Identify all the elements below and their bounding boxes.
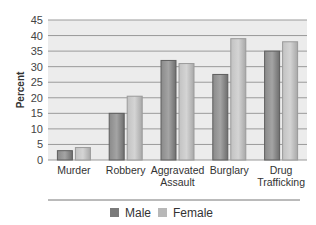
y-tick-label: 45 (31, 14, 43, 26)
y-tick-label: 35 (31, 45, 43, 57)
bar-male (161, 60, 176, 160)
bar-female (283, 42, 298, 160)
x-category-label: Aggravated (151, 164, 205, 176)
bar-chart: 051015202530354045 Percent MurderRobbery… (0, 0, 316, 225)
bar-female (231, 39, 246, 160)
x-category-label: Burglary (210, 164, 250, 176)
y-tick-label: 15 (31, 107, 43, 119)
bar-male (109, 113, 124, 160)
y-tick-label: 10 (31, 123, 43, 135)
y-tick-label: 20 (31, 92, 43, 104)
bar-female (75, 148, 90, 160)
y-axis-ticks: 051015202530354045 (31, 14, 43, 166)
x-category-label: Drug (270, 164, 293, 176)
legend: MaleFemale (110, 206, 213, 220)
x-category-label: Assault (160, 176, 195, 188)
x-category-label: Murder (57, 164, 91, 176)
y-tick-label: 40 (31, 30, 43, 42)
bar-male (265, 51, 280, 160)
legend-label: Male (125, 206, 151, 220)
x-category-label: Robbery (106, 164, 146, 176)
y-tick-label: 30 (31, 61, 43, 73)
legend-item-female: Female (158, 206, 213, 220)
legend-swatch (110, 208, 119, 217)
bar-male (213, 74, 228, 160)
y-tick-label: 5 (37, 138, 43, 150)
legend-item-male: Male (110, 206, 151, 220)
bar-female (179, 64, 194, 160)
x-axis-categories: MurderRobberyAggravatedAssaultBurglaryDr… (57, 164, 305, 188)
y-axis-label: Percent (15, 71, 26, 108)
y-tick-label: 25 (31, 76, 43, 88)
x-category-label: Trafficking (257, 176, 305, 188)
legend-swatch (158, 208, 167, 217)
bar-male (57, 151, 72, 160)
bar-female (127, 96, 142, 160)
legend-label: Female (173, 206, 213, 220)
y-tick-label: 0 (37, 154, 43, 166)
